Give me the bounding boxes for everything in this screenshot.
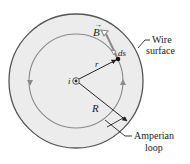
amperian-label-line1: Amperian bbox=[134, 130, 174, 141]
r-label: r bbox=[95, 59, 99, 69]
amperian-loop-diagram: B → ds i r R Wire surface Amperian loop bbox=[0, 0, 190, 164]
ds-label: ds bbox=[118, 48, 127, 58]
wire-surface-label-line1: Wire bbox=[152, 34, 172, 45]
current-dot bbox=[75, 80, 78, 83]
b-vector-arrow: → bbox=[94, 20, 102, 29]
R-label: R bbox=[91, 102, 99, 114]
wire-surface-label-line2: surface bbox=[146, 45, 175, 56]
amperian-label-line2: loop bbox=[145, 142, 163, 153]
diagram-svg: B → ds i r R Wire surface Amperian loop bbox=[0, 0, 190, 164]
